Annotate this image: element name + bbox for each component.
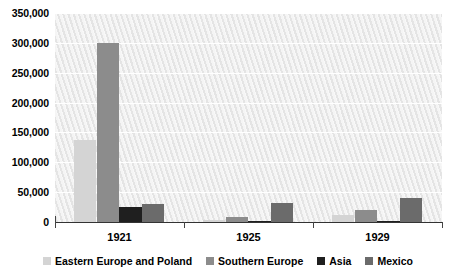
x-axis-tick [184,222,185,228]
y-axis-tick-label: 100,000 [12,156,49,168]
bar-chart: 050,000100,000150,000200,000250,000300,0… [0,0,456,279]
legend-label: Mexico [377,255,413,267]
legend-label: Eastern Europe and Poland [55,255,192,267]
bar[interactable] [142,204,164,222]
chart-legend: Eastern Europe and PolandSouthern Europe… [0,255,456,267]
y-axis-tick-label: 250,000 [12,67,49,79]
bar[interactable] [74,140,96,222]
legend-item[interactable]: Eastern Europe and Poland [43,255,192,267]
legend-swatch-icon [43,257,51,265]
bar[interactable] [355,210,377,222]
bars-layer [55,13,442,222]
x-axis-category-label: 1929 [365,231,389,243]
y-axis-tick-label: 200,000 [12,97,49,109]
y-axis-tick-label: 350,000 [12,7,49,19]
legend-item[interactable]: Southern Europe [206,255,303,267]
bar[interactable] [97,43,119,222]
bar[interactable] [400,198,422,222]
legend-swatch-icon [206,257,214,265]
y-axis-tick-label: 300,000 [12,37,49,49]
bar-group-1925 [203,13,293,222]
x-axis-category-label: 1921 [107,231,131,243]
y-axis-tick-label: 150,000 [12,126,49,138]
y-axis-tick-label: 0 [43,216,49,228]
x-axis-tick [442,222,443,228]
bar-group-1929 [332,13,422,222]
legend-swatch-icon [365,257,373,265]
legend-item[interactable]: Asia [317,255,351,267]
x-axis-tick [55,222,56,228]
bar-group-1921 [74,13,164,222]
legend-swatch-icon [317,257,325,265]
x-axis-tick [313,222,314,228]
y-axis: 050,000100,000150,000200,000250,000300,0… [0,0,52,232]
legend-label: Southern Europe [218,255,303,267]
bar[interactable] [271,203,293,222]
legend-item[interactable]: Mexico [365,255,413,267]
bar[interactable] [119,207,141,222]
y-axis-tick-label: 50,000 [17,186,49,198]
legend-label: Asia [329,255,351,267]
plot-area [55,13,442,222]
x-axis-category-label: 1925 [236,231,260,243]
x-axis-line [55,222,443,223]
